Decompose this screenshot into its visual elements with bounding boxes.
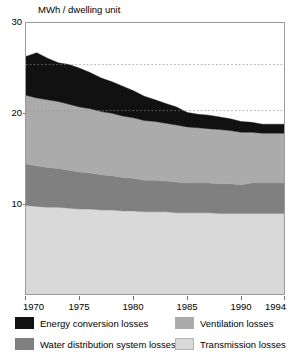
- y-tick-label-10: 10: [0, 199, 22, 209]
- plot-area: [25, 22, 285, 295]
- legend-label: Transmission losses: [200, 339, 286, 350]
- legend-swatch-icon: [15, 338, 34, 350]
- legend-item-transmission-losses: Transmission losses: [175, 338, 286, 350]
- x-tick-label-1970: 1970: [23, 301, 44, 312]
- y-tick-label-30: 30: [0, 17, 22, 27]
- x-tickmark-1975: [79, 296, 80, 300]
- plot-inner: [26, 23, 284, 294]
- x-tick-label-1990: 1990: [230, 301, 251, 312]
- x-tick-label-1994: 1994: [265, 301, 286, 312]
- stacked-area-plot: [26, 23, 284, 294]
- legend-item-ventilation-losses: Ventilation losses: [175, 317, 273, 329]
- legend-swatch-icon: [15, 317, 34, 329]
- x-tickmark-1980: [133, 296, 134, 300]
- legend-label: Ventilation losses: [200, 318, 273, 329]
- chart-root: MWh / dwelling unit 30 20 10 1970 1975 1…: [0, 0, 301, 360]
- chart-legend: Energy conversion losses Water distribut…: [0, 317, 301, 359]
- x-tick-label-1985: 1985: [176, 301, 197, 312]
- x-tick-label-1980: 1980: [122, 301, 143, 312]
- x-tickmark-1970: [25, 296, 26, 300]
- x-axis-ticks: 1970 1975 1980 1985 1990 1994: [0, 296, 301, 312]
- legend-item-energy-conversion-losses: Energy conversion losses: [15, 317, 148, 329]
- x-tick-label-1975: 1975: [68, 301, 89, 312]
- x-tickmark-1990: [241, 296, 242, 300]
- legend-label: Water distribution system losses: [40, 339, 176, 350]
- legend-item-water-distribution-system-losses: Water distribution system losses: [15, 338, 176, 350]
- x-tickmark-1985: [187, 296, 188, 300]
- legend-swatch-icon: [175, 338, 194, 350]
- legend-label: Energy conversion losses: [40, 318, 148, 329]
- y-tick-label-20: 20: [0, 108, 22, 118]
- y-axis-unit-label: MWh / dwelling unit: [38, 4, 120, 15]
- legend-swatch-icon: [175, 317, 194, 329]
- area-band: [26, 205, 284, 294]
- x-tickmark-1994: [284, 296, 285, 300]
